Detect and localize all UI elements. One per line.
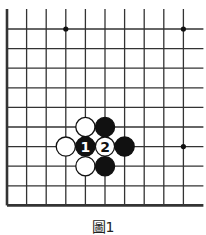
move-number-label: 2 [100,139,110,155]
white-stone [76,157,95,176]
go-board: 12 [0,0,206,215]
star-point [63,26,68,31]
white-stone [76,117,95,136]
black-stone [95,157,114,176]
star-point [181,144,186,149]
black-stone [115,137,134,156]
white-stone [56,137,75,156]
move-number-label: 1 [81,139,91,155]
black-stone [95,117,114,136]
star-point [181,26,186,31]
figure-caption: 圖1 [0,219,206,235]
